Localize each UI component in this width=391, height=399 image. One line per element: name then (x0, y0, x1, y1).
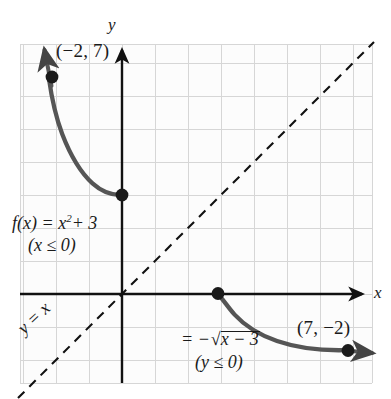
point-dot-0-3 (116, 189, 129, 202)
function-equation-line: f(x) = x2+ 3 (12, 213, 97, 232)
function-domain-label: (x ≤ 0) (28, 236, 97, 254)
point-dot-3-0 (212, 287, 225, 300)
function-name: f(x) (12, 213, 37, 233)
inverse-equation-line: = −√x − 3 (181, 330, 259, 348)
vinculum-bar (221, 331, 260, 332)
y-axis-label: y (108, 16, 116, 33)
point-dot-minus2-7 (46, 71, 59, 84)
radical-sign-icon: √ (211, 329, 221, 349)
function-tail: + 3 (72, 213, 98, 233)
inverse-range-label: (y ≤ 0) (195, 353, 259, 371)
x-axis-label: x (374, 284, 382, 301)
inverse-equation-label: = −√x − 3 (y ≤ 0) (181, 330, 259, 371)
point-label-minus2-7: (−2, 7) (56, 41, 109, 60)
function-equation-label: f(x) = x2+ 3 (x ≤ 0) (12, 213, 97, 254)
radical-group: √x − 3 (210, 330, 259, 348)
point-label-7-minus2: (7, −2) (297, 318, 350, 337)
radicand: x − 3 (221, 329, 259, 349)
function-inverse-graph-figure: y x (−2, 7) (7, −2) f(x) = x2+ 3 (x ≤ 0)… (0, 0, 391, 399)
point-dot-7-minus2 (342, 344, 355, 357)
function-equals: = (37, 213, 58, 233)
inverse-equals: = − (181, 329, 210, 349)
function-base: x (58, 213, 66, 233)
